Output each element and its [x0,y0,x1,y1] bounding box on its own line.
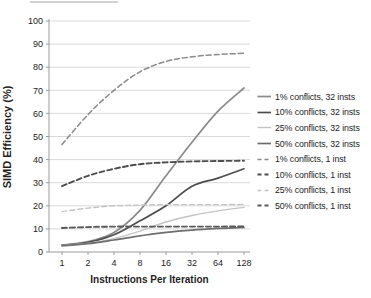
x-tick-label: 2 [85,258,90,268]
legend-swatch [257,91,272,102]
x-axis-title: Instructions Per Iteration [49,274,250,285]
legend-label: 1% conflicts, 32 insts [275,92,355,102]
legend-item-6: 25% conflicts, 1 inst [257,183,371,199]
legend-swatch [257,107,272,118]
y-tick-label: 20 [33,201,43,211]
legend-swatch [257,200,272,211]
legend-swatch [257,185,272,196]
legend-label: 25% conflicts, 1 inst [275,185,351,195]
legend-label: 25% conflicts, 32 insts [275,123,360,133]
y-tick-label: 0 [38,247,43,257]
y-tick-label: 50 [33,132,43,142]
legend-item-0: 1% conflicts, 32 insts [257,89,371,105]
legend-item-3: 50% conflicts, 32 insts [257,136,371,152]
y-tick-label: 10 [33,224,43,234]
simd-efficiency-chart: 01020304050607080901001248163264128 SIMD… [0,0,371,298]
y-tick-label: 40 [33,155,43,165]
legend: 1% conflicts, 32 insts10% conflicts, 32 … [257,89,371,214]
x-tick-label: 128 [236,258,251,268]
legend-item-1: 10% conflicts, 32 insts [257,105,371,121]
legend-label: 10% conflicts, 32 insts [275,107,360,117]
legend-swatch [257,169,272,180]
x-tick-label: 8 [137,258,142,268]
legend-item-2: 25% conflicts, 32 insts [257,120,371,136]
legend-swatch [257,138,272,149]
x-tick-label: 1 [59,258,64,268]
x-tick-label: 64 [213,258,223,268]
y-tick-label: 30 [33,178,43,188]
y-tick-label: 70 [33,86,43,96]
x-tick-label: 4 [111,258,116,268]
legend-swatch [257,154,272,165]
y-tick-label: 100 [28,16,43,26]
y-tick-label: 60 [33,109,43,119]
y-tick-label: 90 [33,39,43,49]
series-line-0 [62,88,244,245]
y-tick-label: 80 [33,62,43,72]
legend-label: 50% conflicts, 32 insts [275,139,360,149]
legend-swatch [257,122,272,133]
series-line-3 [62,228,244,246]
x-tick-label: 32 [187,258,197,268]
legend-item-4: 1% conflicts, 1 inst [257,151,371,167]
y-axis-title: SIMD Efficiency (%) [1,37,15,237]
legend-label: 50% conflicts, 1 inst [275,201,351,211]
legend-label: 1% conflicts, 1 inst [275,154,346,164]
legend-item-5: 10% conflicts, 1 inst [257,167,371,183]
x-tick-label: 16 [161,258,171,268]
legend-item-7: 50% conflicts, 1 inst [257,198,371,214]
legend-label: 10% conflicts, 1 inst [275,170,351,180]
